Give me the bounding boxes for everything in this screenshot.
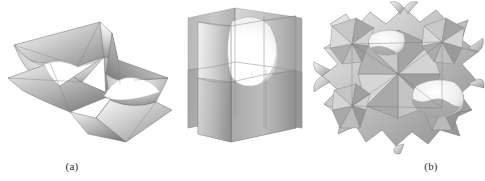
- panel-b-label: (b): [401, 160, 461, 172]
- panel-a-illustration: [0, 0, 180, 155]
- figure-panel-a: (a): [0, 0, 180, 155]
- figure-root: (a): [0, 0, 485, 181]
- panel-b-illustration: [178, 0, 313, 155]
- panel-a-label: (a): [42, 160, 102, 172]
- figure-panel-c: (c): [312, 0, 485, 155]
- panel-b-front-left-plane-lower: [198, 78, 231, 142]
- panel-c-illustration: [312, 0, 485, 155]
- figure-panel-b: (b): [178, 0, 313, 155]
